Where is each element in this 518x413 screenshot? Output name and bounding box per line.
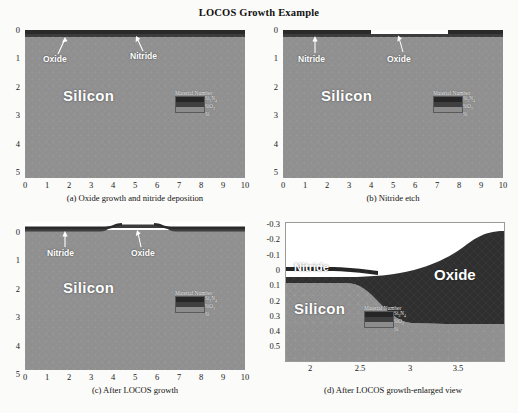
panel-d-ytick-0: -0.3 (252, 219, 280, 229)
panel-a-ytick-2: 2 (0, 82, 20, 92)
panel-c-legend-entries: Si3N4 SiO2 Si (205, 296, 217, 318)
panel-b-xtick-2: 2 (317, 180, 337, 190)
panel-d-ytick-1: -0.2 (252, 234, 280, 244)
panel-b-ytick-1: 1 (258, 53, 278, 63)
panel-b-oxide-label: Oxide (387, 55, 411, 64)
panel-d-xtick-3: 3.5 (446, 363, 470, 373)
panel-c-ytick-0: 0 (0, 227, 20, 237)
panel-c-xtick-10: 10 (235, 372, 255, 382)
panel-b-silicon-label: Silicon (321, 88, 372, 103)
panel-b-caption: (b) Nitride etch (268, 193, 518, 203)
panel-c-xtick-1: 1 (37, 372, 57, 382)
panel-d-legend-swatch (364, 311, 394, 328)
panel-a-legend: Material Number Si3N4 SiO2 Si (175, 90, 237, 116)
figure-title: LOCOS Growth Example (0, 7, 518, 18)
panel-c-xtick-3: 3 (81, 372, 101, 382)
panel-c-silicon-label: Silicon (63, 280, 114, 295)
panel-b-ytick-0: 0 (258, 25, 278, 35)
panel-c-xtick-6: 6 (147, 372, 167, 382)
panel-c-xtick-8: 8 (191, 372, 211, 382)
panel-a-silicon-label: Silicon (63, 88, 114, 103)
panel-c-ytick-3: 3 (0, 312, 20, 322)
panel-d-ytick-7: 0.4 (252, 326, 280, 336)
panel-b-xtick-0: 0 (273, 180, 293, 190)
panel-d-oxide-label: Oxide (434, 267, 476, 282)
panel-d-ytick-3: 0 (252, 265, 280, 275)
panel-a-xtick-0: 0 (15, 180, 35, 190)
panel-c-nitride-label: Nitride (47, 249, 74, 258)
panel-b-xtick-5: 5 (383, 180, 403, 190)
panel-c-oxide-label: Oxide (131, 249, 155, 258)
panel-d-caption: (d) After LOCOS growth-enlarged view (268, 385, 518, 395)
panel-a-xtick-4: 4 (103, 180, 123, 190)
panel-d-xtick-0: 2 (300, 363, 320, 373)
panel-d-ytick-4: 0.1 (252, 280, 280, 290)
legend-entry-si: Si (205, 312, 217, 317)
panel-c-ytick-1: 1 (0, 255, 20, 265)
panel-a-ytick-5: 5 (0, 167, 20, 177)
panel-b-xtick-6: 6 (405, 180, 425, 190)
panel-a-legend-swatch (175, 96, 205, 113)
panel-a-plot: Silicon Oxide Nitride Material Number Si… (25, 30, 245, 178)
panel-b-ytick-2: 2 (258, 82, 278, 92)
panel-a-xtick-9: 9 (213, 180, 233, 190)
panel-a-xtick-7: 7 (169, 180, 189, 190)
panel-a-xtick-1: 1 (37, 180, 57, 190)
panel-a-ytick-4: 4 (0, 139, 20, 149)
panel-d-ytick-5: 0.2 (252, 296, 280, 306)
panel-a-nitride-region (25, 30, 245, 34)
panel-b-ytick-3: 3 (258, 110, 278, 120)
panel-c-legend: Material Number Si3N4 SiO2 Si (175, 290, 237, 316)
panel-c-xtick-9: 9 (213, 372, 233, 382)
panel-d-legend: Material Number Si3N4 SiO2 Si (364, 305, 426, 331)
panel-a-nitride-label: Nitride (130, 52, 157, 61)
panel-d-plot: Nitride Oxide Silicon Material Number Si… (285, 222, 505, 362)
panel-b-legend: Material Number Si3N4 SiO2 Si (433, 90, 495, 116)
panel-d-nitride-label: Nitride (294, 262, 329, 273)
panel-b-xtick-9: 9 (471, 180, 491, 190)
panel-c-xtick-4: 4 (103, 372, 123, 382)
panel-a-ytick-1: 1 (0, 53, 20, 63)
panel-b-xtick-1: 1 (295, 180, 315, 190)
panel-d-xtick-1: 2.5 (348, 363, 372, 373)
panel-b-xtick-3: 3 (339, 180, 359, 190)
panel-d-legend-entries: Si3N4 SiO2 Si (394, 311, 406, 333)
panel-b-xtick-8: 8 (449, 180, 469, 190)
panel-a-xtick-2: 2 (59, 180, 79, 190)
panel-c-caption: (c) After LOCOS growth (10, 385, 260, 395)
panel-c-xtick-5: 5 (125, 372, 145, 382)
panel-c-plot: Silicon Nitride Oxide Material Number Si… (25, 222, 245, 370)
panel-b-nitride-label: Nitride (298, 55, 325, 64)
legend-entry-si: Si (205, 112, 217, 117)
panel-d-silicon-label: Silicon (294, 301, 345, 316)
panel-d-profile (286, 223, 504, 361)
panel-a-xtick-8: 8 (191, 180, 211, 190)
panel-c-ytick-4: 4 (0, 341, 20, 351)
panel-a-xtick-10: 10 (235, 180, 255, 190)
panel-b-plot: Silicon Nitride Oxide Material Number Si… (283, 30, 503, 178)
panel-a-oxide-label: Oxide (43, 55, 67, 64)
panel-b-nitride-right-region (448, 30, 503, 34)
panel-c-xtick-7: 7 (169, 372, 189, 382)
legend-entry-si: Si (394, 327, 406, 332)
panel-a-ytick-0: 0 (0, 25, 20, 35)
panel-a-ytick-3: 3 (0, 110, 20, 120)
panel-b-legend-entries: Si3N4 SiO2 Si (463, 96, 475, 118)
panel-a-caption: (a) Oxide growth and nitride deposition (10, 193, 260, 203)
locos-figure: LOCOS Growth Example Silicon Oxide Nitri… (0, 0, 518, 413)
panel-c-xtick-0: 0 (15, 372, 35, 382)
panel-a-xtick-6: 6 (147, 180, 167, 190)
panel-d-ytick-6: 0.3 (252, 311, 280, 321)
panel-b-ytick-4: 4 (258, 139, 278, 149)
panel-d-ytick-8: 0.5 (252, 341, 280, 351)
legend-entry-si: Si (463, 112, 475, 117)
panel-c-legend-swatch (175, 296, 205, 313)
panel-b-xtick-10: 10 (493, 180, 513, 190)
panel-d-xtick-2: 3 (400, 363, 420, 373)
panel-b-nitride-left-region (283, 30, 371, 34)
panel-a-xtick-3: 3 (81, 180, 101, 190)
panel-b-xtick-4: 4 (361, 180, 381, 190)
panel-c-ytick-2: 2 (0, 284, 20, 294)
panel-d-ytick-2: -0.1 (252, 250, 280, 260)
panel-a-xtick-5: 5 (125, 180, 145, 190)
